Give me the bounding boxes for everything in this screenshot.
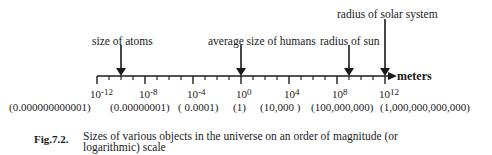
arrow-average-size-of-humans-icon [236,45,246,76]
arrow-size-of-atoms-icon [116,45,126,76]
value-label-10-8: (0.00000001) [110,101,170,113]
marker-label-radius-of-solar-system: radius of solar system [337,8,438,20]
major-ticks [97,76,385,84]
value-label-10-0: (1) [233,101,246,113]
tick-label-10-8-pos: 108 [332,88,348,101]
arrow-radius-of-sun-icon [344,45,354,76]
axis-arrowhead-icon [388,72,397,80]
value-label-10-12: (0.000000000001) [9,101,91,113]
value-label-10-8-pos: (100,000,000) [311,101,373,113]
tick-label-10-4: 10-4 [187,88,206,101]
marker-label-size-of-atoms: size of atoms [92,35,153,47]
arrow-radius-of-solar-system-icon [380,19,390,76]
tick-label-10-12-pos: 1012 [379,88,399,101]
tick-label-10-8: 10-8 [139,88,158,101]
value-label-10-12-pos: (1,000,000,000,000) [380,101,470,113]
marker-label-radius-of-sun: radius of sun [320,35,379,47]
value-label-10-4: ( 0.0001) [178,101,218,113]
tick-label-10-12: 10-12 [90,88,113,101]
value-label-10-4-pos: (10,000 ) [260,101,300,113]
tick-label-10-4-pos: 104 [284,88,300,101]
figure-caption-line-2: logarithmic) scale [83,142,166,153]
figure-number: Fig.7.2. [34,133,69,145]
marker-label-average-size-of-humans: average size of humans [208,35,316,47]
tick-label-10-0: 100 [236,88,252,101]
axis-unit-label: meters [397,69,432,84]
